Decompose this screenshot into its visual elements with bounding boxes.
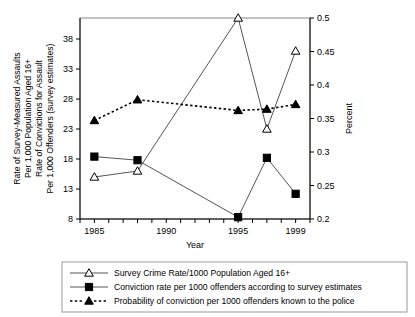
x-axis-tick-label-0: 1985 xyxy=(84,226,104,236)
right-axis-tick-label-6: 0.5 xyxy=(317,13,330,23)
left-axis-tick-label-6: 38 xyxy=(63,34,73,44)
left-axis-tick-label-3: 23 xyxy=(63,124,73,134)
right-axis-tick-label-0: 0.2 xyxy=(317,214,330,224)
left-axis-title-line-2: Rate of Convictions for Assault xyxy=(34,59,44,177)
data-point-1-3 xyxy=(263,154,270,161)
x-axis-tick-label-3: 1999 xyxy=(286,226,306,236)
data-point-0-2 xyxy=(234,14,243,22)
data-point-1-2 xyxy=(235,214,242,221)
data-point-1-1 xyxy=(134,157,141,164)
legend-label-0: Survey Crime Rate/1000 Population Aged 1… xyxy=(114,268,290,278)
x-axis-title: Year xyxy=(186,240,204,250)
plot-area-border xyxy=(80,18,310,219)
left-axis-tick-label-4: 28 xyxy=(63,94,73,104)
chart-figure: 8131823283338Rate of Survey-Measured Ass… xyxy=(0,0,415,317)
data-point-2-1 xyxy=(133,95,142,103)
data-point-2-0 xyxy=(90,116,99,124)
left-axis-title-line-1: Per 1,000 Population Aged 16+ xyxy=(23,59,33,178)
data-point-1-0 xyxy=(91,153,98,160)
left-axis-tick-label-1: 13 xyxy=(63,184,73,194)
right-axis-tick-label-5: 0.45 xyxy=(317,47,335,57)
right-axis-tick-label-2: 0.3 xyxy=(317,147,330,157)
x-axis-tick-label-1: 1990 xyxy=(156,226,176,236)
data-point-1-4 xyxy=(292,190,299,197)
data-point-0-4 xyxy=(291,47,300,55)
data-point-0-1 xyxy=(133,167,142,175)
series-line-1 xyxy=(94,157,295,218)
series-line-0 xyxy=(94,18,295,177)
left-axis-tick-label-2: 18 xyxy=(63,154,73,164)
right-axis-tick-label-4: 0.4 xyxy=(317,80,330,90)
left-axis-title-line-3: Per 1,000 Offenders (survey estimates) xyxy=(45,43,55,193)
left-axis-tick-label-5: 33 xyxy=(63,64,73,74)
legend-filled-square-marker-1 xyxy=(85,283,92,290)
right-axis-tick-label-1: 0.25 xyxy=(317,181,335,191)
x-axis-tick-label-2: 1995 xyxy=(228,226,248,236)
left-axis-title-line-0: Rate of Survey-Measured Assaults xyxy=(12,52,22,184)
chart-canvas: 8131823283338Rate of Survey-Measured Ass… xyxy=(0,0,415,317)
data-point-2-4 xyxy=(291,100,300,108)
legend-label-1: Conviction rate per 1000 offenders accor… xyxy=(114,282,362,292)
left-axis-tick-label-0: 8 xyxy=(68,214,73,224)
data-point-0-3 xyxy=(263,125,272,133)
right-axis-tick-label-3: 0.35 xyxy=(317,114,335,124)
legend-label-2: Probability of conviction per 1000 offen… xyxy=(114,296,355,306)
right-axis-title: Percent xyxy=(344,102,354,134)
